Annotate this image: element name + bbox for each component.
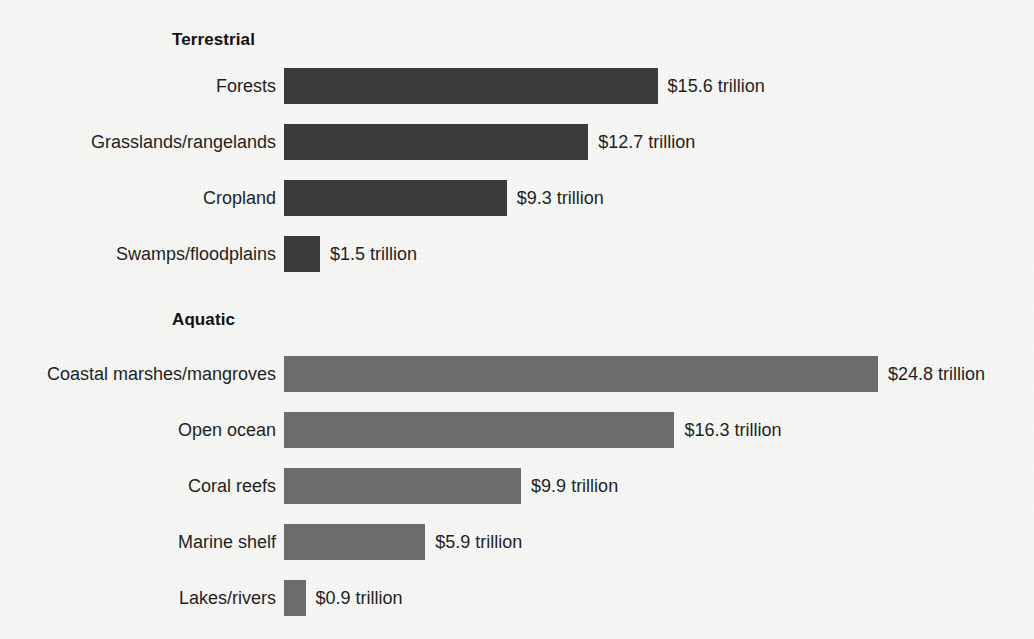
- bar-category-label: Marine shelf: [0, 524, 276, 560]
- bar: [284, 524, 425, 560]
- chart-row: Coastal marshes/mangroves$24.8 trillion: [0, 356, 1034, 392]
- bar: [284, 180, 507, 216]
- bar-value-label: $5.9 trillion: [435, 524, 522, 560]
- chart-row: Open ocean$16.3 trillion: [0, 412, 1034, 448]
- ecosystem-value-bar-chart: TerrestrialForests$15.6 trillionGrasslan…: [0, 0, 1034, 639]
- bar-category-label: Cropland: [0, 180, 276, 216]
- bar-value-label: $1.5 trillion: [330, 236, 417, 272]
- bar: [284, 412, 674, 448]
- bar: [284, 468, 521, 504]
- chart-row: Grasslands/rangelands$12.7 trillion: [0, 124, 1034, 160]
- bar-value-label: $12.7 trillion: [598, 124, 695, 160]
- bar-category-label: Coastal marshes/mangroves: [0, 356, 276, 392]
- section-title-aquatic: Aquatic: [172, 310, 235, 330]
- bar-value-label: $24.8 trillion: [888, 356, 985, 392]
- chart-row: Cropland$9.3 trillion: [0, 180, 1034, 216]
- bar-value-label: $9.9 trillion: [531, 468, 618, 504]
- chart-row: Swamps/floodplains$1.5 trillion: [0, 236, 1034, 272]
- bar-category-label: Lakes/rivers: [0, 580, 276, 616]
- bar: [284, 124, 588, 160]
- bar: [284, 356, 878, 392]
- bar-value-label: $9.3 trillion: [517, 180, 604, 216]
- chart-row: Coral reefs$9.9 trillion: [0, 468, 1034, 504]
- bar: [284, 236, 320, 272]
- section-title-terrestrial: Terrestrial: [172, 30, 255, 50]
- bar-category-label: Swamps/floodplains: [0, 236, 276, 272]
- chart-row: Marine shelf$5.9 trillion: [0, 524, 1034, 560]
- bar: [284, 580, 306, 616]
- bar: [284, 68, 658, 104]
- bar-category-label: Open ocean: [0, 412, 276, 448]
- bar-value-label: $0.9 trillion: [316, 580, 403, 616]
- bar-value-label: $16.3 trillion: [684, 412, 781, 448]
- chart-row: Forests$15.6 trillion: [0, 68, 1034, 104]
- bar-category-label: Coral reefs: [0, 468, 276, 504]
- bar-category-label: Grasslands/rangelands: [0, 124, 276, 160]
- bar-value-label: $15.6 trillion: [668, 68, 765, 104]
- chart-row: Lakes/rivers$0.9 trillion: [0, 580, 1034, 616]
- bar-category-label: Forests: [0, 68, 276, 104]
